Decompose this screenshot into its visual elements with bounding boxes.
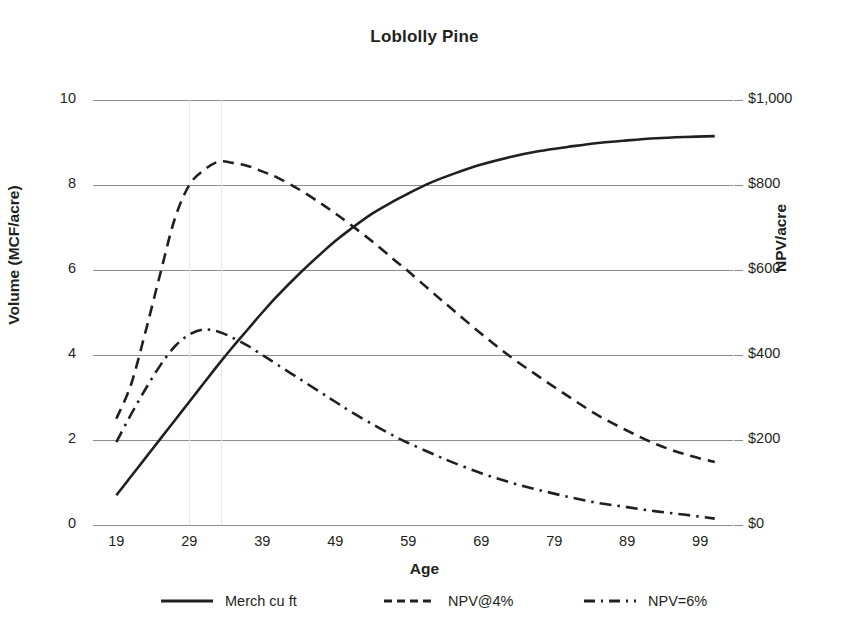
legend-swatch-dash-dot-icon [583, 594, 637, 608]
x-axis-tick-label: 19 [86, 533, 146, 549]
legend-label: Merch cu ft [225, 593, 297, 609]
y-axis-right-tick-label: $1,000 [748, 90, 838, 106]
gridline-vertical-reference [221, 100, 222, 525]
x-axis-tick-label: 49 [305, 533, 365, 549]
legend-swatch-solid-icon [160, 594, 214, 608]
x-axis-tick-label: 89 [597, 533, 657, 549]
y-axis-left-tick-label: 10 [28, 90, 76, 106]
y-axis-left-title: Volume (MCF/acre) [5, 90, 23, 420]
y-axis-left-tick-label: 2 [28, 430, 76, 446]
legend-item-npv-4[interactable]: NPV@4% [383, 588, 514, 614]
chart-legend: Merch cu ftNPV@4%NPV=6% [0, 588, 849, 614]
x-axis-tick-label: 79 [524, 533, 584, 549]
y-axis-left-tick-label: 4 [28, 345, 76, 361]
y-axis-right-tick-label: $200 [748, 430, 838, 446]
chart-title: Loblolly Pine [0, 27, 849, 47]
y-axis-left-tick-label: 6 [28, 260, 76, 276]
y-axis-right-tick-label: $600 [748, 260, 838, 276]
y-axis-left-tick-label: 0 [28, 515, 76, 531]
x-axis-tick-label: 69 [451, 533, 511, 549]
plot-area [93, 100, 733, 525]
x-axis-tick-label: 39 [232, 533, 292, 549]
y-axis-right-tick-mark [734, 525, 743, 526]
y-axis-right-tick-mark [734, 355, 743, 356]
x-axis-tick-label: 99 [670, 533, 730, 549]
gridline-vertical-reference [189, 100, 190, 525]
legend-item-npv-6[interactable]: NPV=6% [583, 588, 707, 614]
gridline-horizontal [93, 525, 733, 526]
x-axis-tick-label: 29 [159, 533, 219, 549]
y-axis-left-tick-label: 8 [28, 175, 76, 191]
legend-swatch-dashed-icon [383, 594, 437, 608]
y-axis-right-tick-mark [734, 440, 743, 441]
y-axis-right-tick-mark [734, 185, 743, 186]
y-axis-right-tick-label: $400 [748, 345, 838, 361]
chart-page: Loblolly Pine 0246810 $0$200$400$600$800… [0, 0, 849, 622]
legend-label: NPV=6% [648, 593, 707, 609]
y-axis-right-tick-label: $0 [748, 515, 838, 531]
y-axis-right-title: NPV/acre [772, 128, 790, 348]
x-axis-title: Age [0, 560, 849, 578]
y-axis-right-tick-mark [734, 270, 743, 271]
y-axis-right-tick-mark [734, 100, 743, 101]
y-axis-right-tick-label: $800 [748, 175, 838, 191]
legend-label: NPV@4% [448, 593, 514, 609]
legend-item-merch-cu-ft[interactable]: Merch cu ft [160, 588, 297, 614]
x-axis-tick-label: 59 [378, 533, 438, 549]
